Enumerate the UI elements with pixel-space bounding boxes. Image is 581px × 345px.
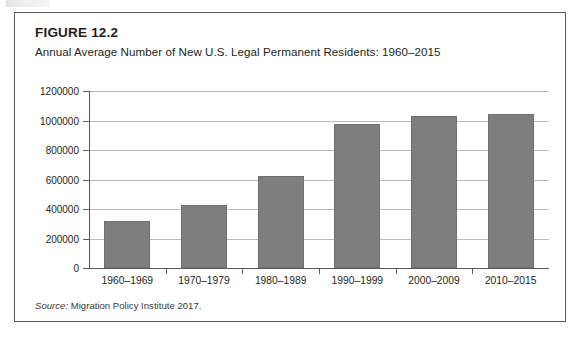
scan-artifact (6, 0, 50, 7)
bar-series (89, 91, 549, 268)
y-axis-tick (83, 121, 89, 122)
y-axis-tick-label: 600000 (46, 174, 79, 185)
y-axis-tick-label: 0 (73, 263, 79, 274)
chart-plot-area: 020000040000060000080000010000001200000 … (15, 13, 567, 323)
source-citation: Migration Policy Institute 2017. (68, 300, 201, 311)
bar (411, 116, 457, 268)
bar-slot (242, 91, 319, 268)
bar-slot (472, 91, 549, 268)
x-axis-tick-label: 1980–1989 (255, 275, 307, 286)
bar (258, 176, 304, 268)
x-axis-tick-label: 2010–2015 (485, 275, 537, 286)
y-axis-tick (83, 150, 89, 151)
y-axis-tick-label: 1200000 (40, 86, 79, 97)
x-axis-tick (396, 269, 397, 274)
y-axis-tick-label: 800000 (46, 145, 79, 156)
bar-slot (396, 91, 473, 268)
x-axis-tick (242, 269, 243, 274)
y-axis-tick (83, 239, 89, 240)
y-axis-tick (83, 209, 89, 210)
x-axis-ticks (89, 269, 549, 274)
bar-slot (319, 91, 396, 268)
x-axis-tick (319, 269, 320, 274)
bar (488, 114, 534, 268)
x-axis-tick (166, 269, 167, 274)
y-axis-tick (83, 180, 89, 181)
bar (104, 221, 150, 268)
x-axis-tick-label: 1960–1969 (102, 275, 154, 286)
source-prefix: Source: (35, 300, 68, 311)
x-axis-tick (472, 269, 473, 274)
bar-slot (166, 91, 243, 268)
source-note: Source: Migration Policy Institute 2017. (35, 300, 201, 311)
x-axis-tick-label: 1970–1979 (178, 275, 230, 286)
y-axis-tick-label: 200000 (46, 233, 79, 244)
figure-box: FIGURE 12.2 Annual Average Number of New… (14, 12, 566, 322)
bar-slot (89, 91, 166, 268)
y-axis-tick-label: 400000 (46, 204, 79, 215)
y-axis-labels: 020000040000060000080000010000001200000 (15, 13, 79, 323)
x-axis-labels: 1960–19691970–19791980–19891990–19992000… (89, 275, 549, 291)
y-axis-tick (83, 268, 89, 269)
x-axis-tick-label: 1990–1999 (332, 275, 384, 286)
x-axis-tick-label: 2000–2009 (408, 275, 460, 286)
y-axis-tick-label: 1000000 (40, 115, 79, 126)
bar (334, 124, 380, 268)
y-axis-tick (83, 91, 89, 92)
bar (181, 205, 227, 268)
